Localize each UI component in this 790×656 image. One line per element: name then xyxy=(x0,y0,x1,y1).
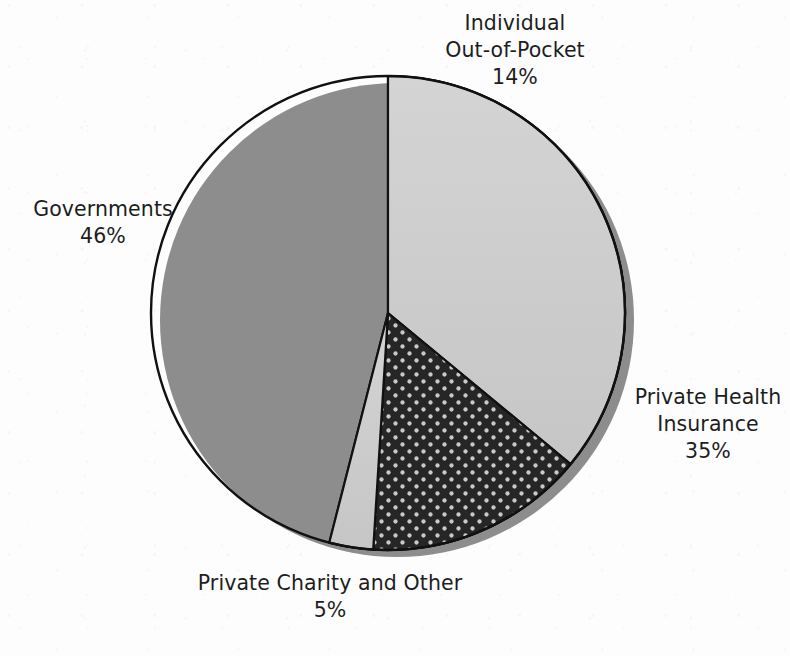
pie-label-private-health-insurance: Private Health Insurance 35% xyxy=(628,384,788,465)
pie-label-private-charity-and-other: Private Charity and Other 5% xyxy=(180,570,480,624)
pie-label-insurance-line2: Insurance xyxy=(628,411,788,438)
pie-label-out-of-pocket-percent: 14% xyxy=(400,64,630,91)
pie-label-governments-percent: 46% xyxy=(8,223,198,250)
pie-label-out-of-pocket-line2: Out-of-Pocket xyxy=(400,37,630,64)
pie-label-out-of-pocket: Individual Out-of-Pocket 14% xyxy=(400,10,630,91)
pie-chart-svg xyxy=(0,0,790,656)
pie-label-insurance-line1: Private Health xyxy=(628,384,788,411)
pie-label-charity-percent: 5% xyxy=(180,597,480,624)
pie-chart: Individual Out-of-Pocket 14% Governments… xyxy=(0,0,790,656)
pie-label-charity-line1: Private Charity and Other xyxy=(180,570,480,597)
pie-label-out-of-pocket-line1: Individual xyxy=(400,10,630,37)
pie-label-governments-line1: Governments xyxy=(8,196,198,223)
pie-label-governments: Governments 46% xyxy=(8,196,198,250)
pie-chart-page: Individual Out-of-Pocket 14% Governments… xyxy=(0,0,790,656)
pie-label-insurance-percent: 35% xyxy=(628,438,788,465)
